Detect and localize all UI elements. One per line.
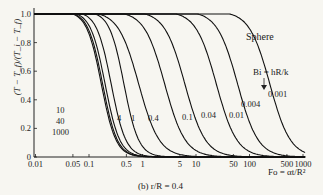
curve-label: 1000	[52, 127, 69, 137]
x-tick-label: 100	[243, 159, 256, 169]
curve-label: 40	[56, 116, 65, 126]
x-tick-label: 0.1	[84, 159, 95, 169]
x-tick-label: 0.5	[121, 159, 132, 169]
y-axis-label: (T − T_f)/(T_i − T_f)	[12, 2, 22, 112]
x-tick-label: 10	[192, 159, 201, 169]
curve-label: 1	[131, 113, 135, 123]
curve-label: 10	[56, 105, 65, 115]
x-axis-label: Fo = αt/R²	[268, 168, 306, 177]
y-tick-label: 0	[27, 152, 31, 162]
curve-label: 0.01	[229, 110, 244, 120]
y-tick-label: 0.4	[20, 95, 31, 105]
x-tick-label: 1	[140, 159, 144, 169]
curve-label: 0.001	[268, 89, 287, 99]
chart: 0.010.050.10.5151050100500100000.20.40.6…	[0, 0, 323, 195]
figure-caption: (b) r/R = 0.4	[138, 182, 183, 191]
chart-title: Sphere	[246, 32, 274, 41]
bi-legend-label: Bi = hR/k	[253, 68, 289, 77]
curve-label: 0.4	[148, 113, 159, 123]
curve-label: 0.004	[241, 99, 261, 109]
y-tick-label: 0.2	[20, 123, 31, 133]
x-tick-label: 5	[178, 159, 182, 169]
curve-label: 0.1	[182, 112, 193, 122]
plot-area: 0.010.050.10.5151050100500100000.20.40.6…	[0, 0, 323, 195]
curve-label: 4	[117, 113, 122, 123]
x-tick-label: 0.05	[65, 159, 80, 169]
x-tick-label: 50	[229, 159, 238, 169]
curve-label: 0.04	[201, 110, 217, 120]
